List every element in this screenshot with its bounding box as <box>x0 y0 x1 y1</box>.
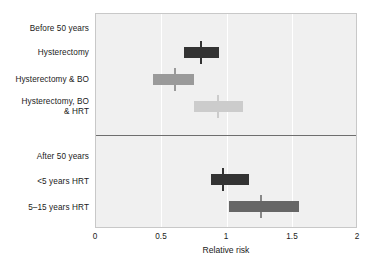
ci-bar-hysterectomy-and-bo <box>153 74 194 85</box>
x-axis-title: Relative risk <box>95 245 357 255</box>
x-tick-label-1: 1 <box>224 232 229 241</box>
row-label-5-to-15-years-hrt: 5–15 years HRT <box>28 203 95 213</box>
row-label-hysterectomy-bo-and-hrt: Hysterectomy, BO & HRT <box>22 97 95 117</box>
forest-plot-figure: Before 50 years Hysterectomy Hysterectom… <box>0 0 368 265</box>
x-tick-label-1-5: 1.5 <box>286 232 297 241</box>
gridline-0-5 <box>161 14 162 227</box>
x-tick-label-0-5: 0.5 <box>155 232 166 241</box>
ci-bar-hysterectomy-bo-and-hrt <box>194 101 243 112</box>
group-divider-line <box>96 135 356 136</box>
ci-bar-5-to-15-years-hrt <box>229 201 299 212</box>
group-heading-after-50-years: After 50 years <box>37 152 95 162</box>
gridline-1-0 <box>227 14 228 227</box>
ci-bar-under-5-years-hrt <box>211 174 249 185</box>
gridline-1-5 <box>292 14 293 227</box>
x-tick-label-2: 2 <box>355 232 360 241</box>
x-tick-label-0: 0 <box>93 232 98 241</box>
ci-bar-hysterectomy <box>184 47 219 58</box>
row-label-under-5-years-hrt: <5 years HRT <box>37 177 95 187</box>
group-heading-before-50-years: Before 50 years <box>30 24 95 34</box>
plot-area <box>95 13 357 228</box>
row-label-hysterectomy: Hysterectomy <box>38 48 95 58</box>
row-label-hysterectomy-and-bo: Hysterectomy & BO <box>15 75 95 85</box>
